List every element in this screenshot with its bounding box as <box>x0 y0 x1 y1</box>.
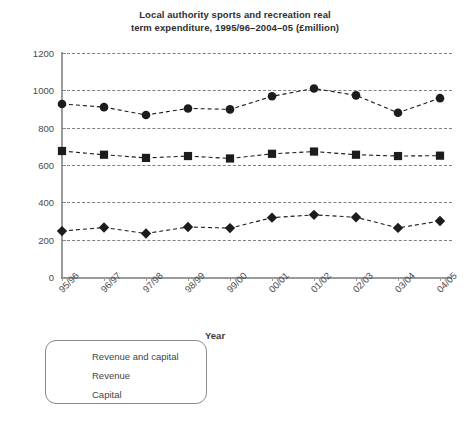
chart-title-line-1: Local authority sports and recreation re… <box>70 8 400 21</box>
y-axis-tick-label: 200 <box>12 234 54 245</box>
x-axis-tick-mark <box>398 277 399 281</box>
y-axis-tick-label: 1000 <box>12 85 54 96</box>
y-axis-tick-mark <box>61 128 66 129</box>
x-axis-tick-mark <box>146 277 147 281</box>
y-axis-tick-label: 0 <box>12 272 54 283</box>
circle-marker-icon <box>68 350 80 362</box>
y-axis-tick-mark <box>61 53 66 54</box>
y-axis-tick-label: 800 <box>12 122 54 133</box>
chart-title: Local authority sports and recreation re… <box>70 8 400 34</box>
y-axis-tick-mark <box>61 165 66 166</box>
y-axis-tick-mark <box>61 202 66 203</box>
x-axis-tick-mark <box>230 277 231 281</box>
chart-container: Local authority sports and recreation re… <box>0 0 467 425</box>
x-axis-tick-mark <box>272 277 273 281</box>
y-axis-tick-label: 1200 <box>12 48 54 59</box>
diamond-marker-icon <box>68 388 80 400</box>
plot-area <box>62 53 452 277</box>
gridline <box>62 165 452 166</box>
chart-title-line-2: term expenditure, 1995/96–2004–05 (£mill… <box>70 21 400 34</box>
gridline <box>62 240 452 241</box>
x-axis-tick-mark <box>440 277 441 281</box>
gridline <box>62 53 452 54</box>
x-axis-tick-mark <box>104 277 105 281</box>
y-axis-tick-mark <box>61 240 66 241</box>
legend-label-revenue-and-capital: Revenue and capital <box>92 351 179 362</box>
legend-label-capital: Capital <box>92 389 122 400</box>
x-axis-tick-mark <box>356 277 357 281</box>
y-axis-tick-mark <box>61 90 66 91</box>
gridline <box>62 90 452 91</box>
y-axis-tick-label: 600 <box>12 160 54 171</box>
x-axis-title: Year <box>205 330 225 341</box>
chart-legend: Revenue and capital Revenue Capital <box>45 340 207 404</box>
legend-item-revenue-and-capital: Revenue and capital <box>68 348 179 364</box>
x-axis-tick-mark <box>188 277 189 281</box>
legend-item-capital: Capital <box>68 386 122 402</box>
gridline <box>62 128 452 129</box>
y-axis-tick-labels: 020040060080010001200 <box>10 53 54 277</box>
x-axis-tick-mark <box>62 277 63 281</box>
x-axis-tick-mark <box>314 277 315 281</box>
y-axis-tick-label: 400 <box>12 197 54 208</box>
legend-label-revenue: Revenue <box>92 370 130 381</box>
square-marker-icon <box>68 369 80 381</box>
legend-item-revenue: Revenue <box>68 367 130 383</box>
gridline <box>62 202 452 203</box>
